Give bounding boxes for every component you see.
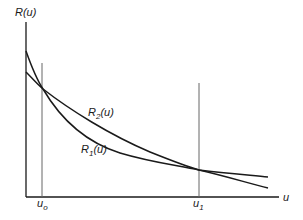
u0-label: uo bbox=[37, 197, 48, 212]
curve-r2-label: R2(u) bbox=[88, 106, 114, 121]
curve-r1 bbox=[26, 51, 268, 188]
x-axis-label: u bbox=[283, 191, 289, 203]
y-axis-label: R(u) bbox=[15, 6, 37, 18]
diagram-canvas: R(u) u R2(u) R1(u) uo u1 bbox=[0, 0, 303, 220]
u1-label: u1 bbox=[193, 197, 204, 212]
curve-r2 bbox=[26, 72, 268, 177]
curve-r1-label: R1(u) bbox=[81, 143, 107, 158]
